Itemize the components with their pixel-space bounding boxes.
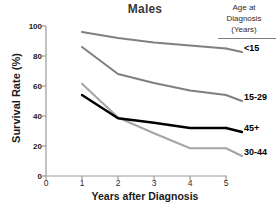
survival-rate-chart: Males Survival Rate (%) Years after Diag… xyxy=(0,0,277,208)
legend-swatch-group xyxy=(226,49,242,157)
legend-label-under-15: <15 xyxy=(244,43,259,53)
legend-swatch-30-44 xyxy=(226,148,242,156)
series-line-45-plus xyxy=(82,95,226,128)
legend-title-line-2: Diagnosis xyxy=(212,13,276,24)
legend-swatch-under-15 xyxy=(226,49,242,53)
legend-title-line-3: (Years) xyxy=(212,24,276,35)
series-line-15-29 xyxy=(82,47,226,95)
x-axis-ticks xyxy=(46,176,226,180)
legend-divider xyxy=(218,38,276,39)
series-line-under-15 xyxy=(82,32,226,49)
legend-title: Age at Diagnosis (Years) xyxy=(212,2,276,35)
data-series-group xyxy=(82,32,226,148)
legend-swatch-15-29 xyxy=(226,95,242,101)
legend-label-45-plus: 45+ xyxy=(244,123,259,133)
axis-lines xyxy=(46,26,227,176)
legend-title-line-1: Age at xyxy=(212,2,276,13)
legend-swatch-45-plus xyxy=(226,128,242,132)
legend-label-15-29: 15-29 xyxy=(244,92,267,102)
series-line-30-44 xyxy=(82,84,226,149)
legend-label-30-44: 30-44 xyxy=(244,147,267,157)
